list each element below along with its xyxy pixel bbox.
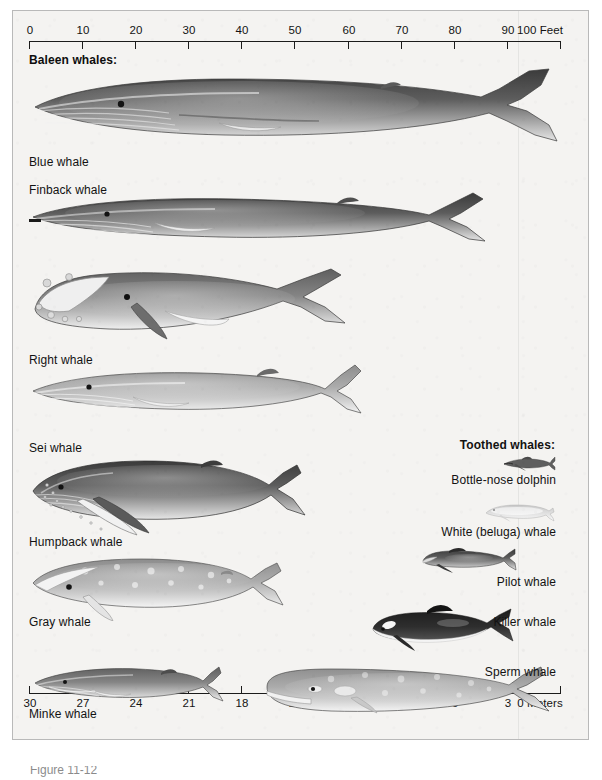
whale-illustration-minke [29, 661, 225, 707]
group-heading-toothed: Toothed whales: [460, 438, 555, 452]
tick-label-feet: 0 [27, 24, 34, 36]
tick-label-feet: 70 [396, 24, 409, 36]
scale-feet: 0 10 20 30 40 50 60 70 80 90 100 Feet [13, 19, 588, 53]
figure-frame: 0 10 20 30 40 50 60 70 80 90 100 Feet 30… [12, 10, 589, 740]
tick-meters [560, 686, 561, 694]
tick-feet [135, 41, 136, 49]
whale-illustration-dolphin [502, 455, 556, 471]
whale-illustration-blue [29, 59, 574, 159]
tick-label-feet: 20 [130, 24, 143, 36]
species-label-blue-whale: Blue whale [29, 155, 89, 169]
tick-label-feet: 90 [502, 24, 515, 36]
whale-illustration-gray [25, 549, 293, 621]
tick-meters [241, 686, 242, 694]
tick-label-feet: 40 [236, 24, 249, 36]
species-label-minke-whale: Minke whale [29, 707, 97, 721]
figure-caption: Figure 11-12 [30, 766, 330, 780]
whale-illustration-sei [25, 359, 365, 425]
whale-illustration-right [25, 263, 373, 347]
whale-illustration-humpback [25, 451, 315, 539]
species-label-humpback-whale: Humpback whale [29, 535, 122, 549]
tick-feet [560, 41, 561, 49]
tick-feet [29, 41, 30, 49]
tick-label-feet: 60 [343, 24, 356, 36]
tick-feet [454, 41, 455, 49]
species-label-killer-whale: Killer whale [493, 615, 556, 629]
species-label-sperm-whale: Sperm whale [485, 665, 556, 679]
tick-label-feet: 50 [289, 24, 302, 36]
axis-unit-feet: 100 Feet [517, 24, 563, 36]
tick-feet [241, 41, 242, 49]
tick-feet [188, 41, 189, 49]
species-label-beluga-whale: White (beluga) whale [441, 525, 556, 539]
species-label-finback-whale: Finback whale [29, 183, 107, 197]
tick-feet [401, 41, 402, 49]
whale-illustration-pilot [419, 547, 517, 573]
tick-feet [348, 41, 349, 49]
tick-feet [294, 41, 295, 49]
species-label-gray-whale: Gray whale [29, 615, 91, 629]
tick-feet [507, 41, 508, 49]
tick-label-feet: 80 [449, 24, 462, 36]
tick-label-feet: 30 [183, 24, 196, 36]
figure-caption-text: Figure 11-12 [30, 766, 330, 777]
tick-label-meters: 18 [236, 697, 249, 709]
tick-feet [82, 41, 83, 49]
tick-label-feet: 10 [77, 24, 90, 36]
whale-illustration-beluga [483, 502, 555, 522]
species-label-bottle-nose-dolphin: Bottle-nose dolphin [451, 473, 556, 487]
species-label-pilot-whale: Pilot whale [497, 575, 556, 589]
